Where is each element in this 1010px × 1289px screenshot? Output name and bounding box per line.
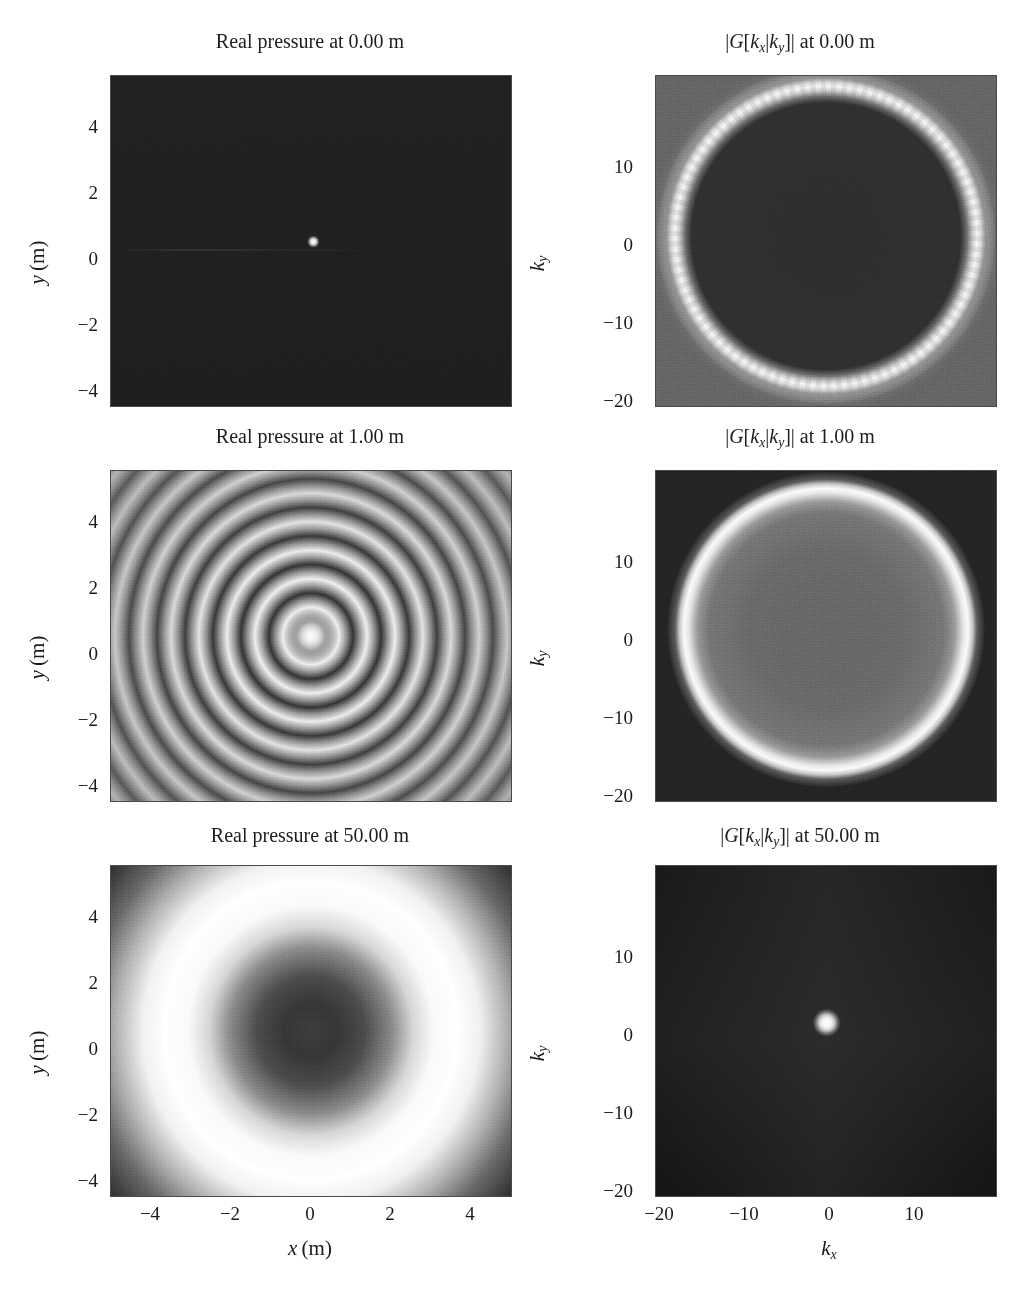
- x-axis-label-right: kx: [749, 1236, 909, 1263]
- y-tick-label: 0: [3, 249, 98, 268]
- panel-real-pressure-0: Real pressure at 0.00 m y (m) 4 2 0 −2 −…: [0, 22, 520, 417]
- y-tick-label: 0: [3, 644, 98, 663]
- image-axes-real-pressure-50[interactable]: [110, 865, 512, 1197]
- panel-title-spectrum-50: |G[kx|ky]| at 50.00 m: [620, 824, 980, 850]
- y-tick-label: 10: [538, 947, 633, 966]
- y-tick-label: 4: [3, 117, 98, 136]
- x-tick-label: 10: [879, 1204, 949, 1223]
- y-tick-label: −10: [538, 313, 633, 332]
- panel-title-real-pressure-50: Real pressure at 50.00 m: [110, 824, 510, 847]
- y-tick-label: 10: [538, 552, 633, 571]
- panel-title-spectrum-1: |G[kx|ky]| at 1.00 m: [620, 425, 980, 451]
- panel-title-distance: at 0.00 m: [795, 30, 875, 52]
- y-tick-label: 10: [538, 157, 633, 176]
- panel-title-spectrum-0: |G[kx|ky]| at 0.00 m: [620, 30, 980, 56]
- y-tick-label: 0: [538, 235, 633, 254]
- y-tick-label: −2: [3, 1105, 98, 1124]
- y-tick-label: −10: [538, 1103, 633, 1122]
- panel-title-real-pressure-0: Real pressure at 0.00 m: [110, 30, 510, 53]
- panel-title-real-pressure-1: Real pressure at 1.00 m: [110, 425, 510, 448]
- y-tick-label: 2: [3, 578, 98, 597]
- y-tick-label: −2: [3, 315, 98, 334]
- y-tick-label: 2: [3, 183, 98, 202]
- y-tick-label: 0: [3, 1039, 98, 1058]
- image-axes-spectrum-0[interactable]: [655, 75, 997, 407]
- x-tick-label: 2: [360, 1204, 420, 1223]
- image-axes-real-pressure-1[interactable]: [110, 470, 512, 802]
- y-tick-label: −2: [3, 710, 98, 729]
- y-tick-label: 2: [3, 973, 98, 992]
- image-axes-real-pressure-0[interactable]: [110, 75, 512, 407]
- x-tick-label: −10: [709, 1204, 779, 1223]
- panel-title-distance: at 50.00 m: [790, 824, 880, 846]
- y-tick-label: −4: [3, 776, 98, 795]
- panel-real-pressure-50: Real pressure at 50.00 m y (m) 4 2 0 −2 …: [0, 812, 520, 1232]
- x-tick-label: −2: [200, 1204, 260, 1223]
- y-tick-label: 0: [538, 1025, 633, 1044]
- x-tick-label: −4: [120, 1204, 180, 1223]
- image-axes-spectrum-50[interactable]: [655, 865, 997, 1197]
- x-tick-label: −20: [624, 1204, 694, 1223]
- y-tick-label: 4: [3, 512, 98, 531]
- y-tick-label: −20: [538, 786, 633, 805]
- panel-spectrum-50: |G[kx|ky]| at 50.00 m ky 10 0 −10 −20 −2…: [520, 812, 1010, 1232]
- y-tick-label: −4: [3, 381, 98, 400]
- y-tick-label: 0: [538, 630, 633, 649]
- figure-root: Real pressure at 0.00 m y (m) 4 2 0 −2 −…: [0, 0, 1010, 1289]
- y-tick-label: 4: [3, 907, 98, 926]
- panel-spectrum-1: |G[kx|ky]| at 1.00 m ky 10 0 −10 −20: [520, 417, 1010, 812]
- panel-real-pressure-1: Real pressure at 1.00 m y (m) 4 2 0 −2 −…: [0, 417, 520, 812]
- x-axis-label-left: x (m): [210, 1236, 410, 1261]
- panel-title-distance: at 1.00 m: [795, 425, 875, 447]
- panel-spectrum-0: |G[kx|ky]| at 0.00 m ky 10 0 −10 −20: [520, 22, 1010, 417]
- y-tick-label: −20: [538, 391, 633, 410]
- y-tick-label: −10: [538, 708, 633, 727]
- image-axes-spectrum-1[interactable]: [655, 470, 997, 802]
- x-tick-label: 0: [794, 1204, 864, 1223]
- x-tick-label: 0: [280, 1204, 340, 1223]
- y-tick-label: −4: [3, 1171, 98, 1190]
- x-tick-label: 4: [440, 1204, 500, 1223]
- y-tick-label: −20: [538, 1181, 633, 1200]
